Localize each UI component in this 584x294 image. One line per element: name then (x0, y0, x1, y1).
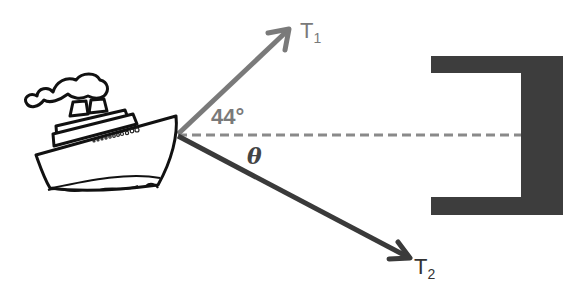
angle-label-t1: 44° (211, 104, 244, 130)
label-t1: T1 (300, 18, 321, 46)
angle-label-theta: θ (247, 143, 262, 169)
label-t2: T2 (414, 254, 435, 282)
ship-icon (25, 74, 176, 191)
vector-t2 (178, 136, 410, 259)
diagram-canvas (0, 0, 584, 294)
